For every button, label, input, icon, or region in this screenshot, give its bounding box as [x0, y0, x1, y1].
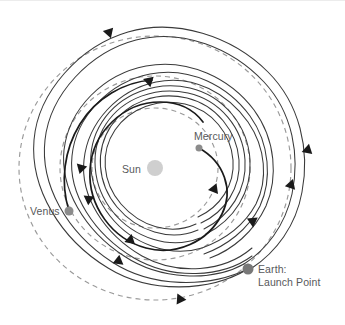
earth-label-line2: Launch Point: [258, 276, 321, 288]
earth-marker: [243, 264, 254, 275]
mercury-marker: [196, 145, 203, 152]
sun-label: Sun: [122, 163, 141, 175]
trajectory-arcs-group: [34, 27, 305, 287]
arrow-top-outer: [102, 26, 113, 39]
arc-outer-2: [44, 36, 295, 282]
trajectory-diagram: Sun Mercury Venus Earth: Launch Point: [0, 0, 345, 325]
arrow-right-mid: [285, 177, 298, 189]
arrow-bottom: [177, 294, 187, 305]
arrow-left-upper: [74, 164, 87, 176]
venus-label: Venus: [30, 205, 60, 217]
mercury-label: Mercury: [194, 130, 233, 142]
bodies-group: [65, 145, 254, 275]
sun-marker: [147, 160, 163, 176]
arrow-right-inner: [208, 181, 222, 194]
earth-label-line1: Earth:: [258, 263, 287, 275]
arc-inner-1: [91, 86, 250, 251]
arc-bold-venus-approach: [64, 80, 152, 211]
venus-marker: [65, 207, 74, 216]
arc-inner-2: [95, 91, 245, 243]
